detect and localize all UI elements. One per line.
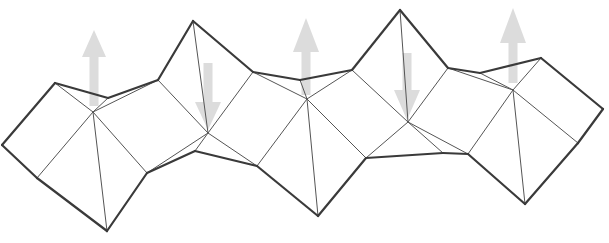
interior-edge-U-X <box>448 68 513 90</box>
outline-edge-A-B <box>2 83 55 145</box>
outline-edge-W-AA <box>468 154 525 204</box>
outline-edge-C-G <box>37 178 107 231</box>
interior-edge-N5-X <box>480 73 513 90</box>
outline-edge-Q-T <box>352 10 400 70</box>
polyhedra-chain-diagram <box>0 0 609 243</box>
interior-edge-D-H <box>93 112 147 173</box>
interior-edge-W-X <box>468 90 513 154</box>
interior-edge-M-R <box>307 99 318 216</box>
arrow-up-icon <box>500 8 526 83</box>
outline-edge-L-R <box>257 166 318 216</box>
interior-edge-M-S <box>307 99 366 158</box>
outline-edge-AC-AB <box>578 109 603 143</box>
outline-edge-S-N4 <box>366 153 443 158</box>
outline-edge-H-N2 <box>147 151 195 173</box>
interior-edge-V-S <box>366 122 408 158</box>
outline-edge-AA-AB <box>525 143 578 204</box>
outline-edge-E-F <box>108 80 158 98</box>
interior-edge-X-AB <box>513 90 578 143</box>
outline-edge-Y-AC <box>541 58 603 109</box>
outline-edge-G-H <box>107 173 147 231</box>
outline-edge-P-K <box>193 21 253 72</box>
outline-edge-B-C <box>2 145 37 178</box>
outline-edge-N2-L <box>195 151 257 166</box>
interior-edge-I-N2 <box>195 133 208 151</box>
outline-edge-F-P <box>158 21 193 80</box>
interior-edge-L-M <box>257 99 307 166</box>
interior-edge-X-AA <box>513 90 525 204</box>
outline-edge-N4-W <box>443 153 468 154</box>
outline-edge-A-E <box>55 83 108 98</box>
outline-edge-R-S <box>318 158 366 216</box>
outline-edge-U-N5 <box>448 68 480 73</box>
arrow-up-icon <box>293 18 319 95</box>
interior-edge-D-G <box>93 112 107 231</box>
interior-edge-C-D <box>37 112 93 178</box>
